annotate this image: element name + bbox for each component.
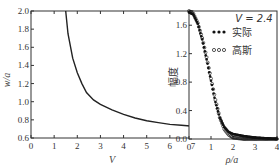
x-tick-label: 3 xyxy=(253,142,258,152)
legend-label-actual: 实际 xyxy=(232,26,252,38)
actual-point xyxy=(197,26,200,29)
x-tick-label: 7 xyxy=(191,141,196,151)
x-tick-label: 6 xyxy=(168,141,173,151)
left-plot: 0.60.81.01.21.41.61.82.0 01234567 V w/a xyxy=(1,6,196,165)
x-tick-label: 4 xyxy=(275,142,279,152)
actual-point xyxy=(197,23,200,26)
left-y-axis-label: w/a xyxy=(1,73,12,87)
actual-point xyxy=(205,58,208,61)
y-tick-label: 1.8 xyxy=(18,24,30,34)
x-tick-label: 4 xyxy=(121,141,126,151)
x-tick-label: 3 xyxy=(98,141,103,151)
actual-point xyxy=(198,29,201,32)
actual-point xyxy=(213,97,216,100)
y-tick-label: 0.0 xyxy=(176,134,188,144)
actual-point xyxy=(214,101,217,104)
y-tick-label: 2.0 xyxy=(18,6,30,16)
actual-point xyxy=(201,38,204,41)
y-tick-label: 1.6 xyxy=(176,20,188,30)
actual-point xyxy=(217,110,220,113)
actual-point xyxy=(276,138,279,141)
actual-point xyxy=(202,42,205,45)
v-annotation: V = 2.4 xyxy=(235,13,272,24)
left-x-axis-label: V xyxy=(109,154,117,165)
x-tick-label: 2 xyxy=(231,142,236,152)
actual-point xyxy=(212,88,215,91)
y-tick-label: 1.6 xyxy=(18,42,30,52)
actual-point xyxy=(204,54,207,57)
actual-point xyxy=(206,62,209,65)
actual-point xyxy=(208,71,211,74)
figure: 0.60.81.01.21.41.61.82.0 01234567 V w/a … xyxy=(0,0,279,165)
actual-point xyxy=(209,75,212,78)
actual-point xyxy=(199,32,202,35)
actual-point xyxy=(210,79,213,82)
right-y-axis-label: 幅度 xyxy=(167,67,179,87)
x-tick-label: 1 xyxy=(52,141,57,151)
actual-point xyxy=(203,46,206,49)
right-plot: 0.00.40.81.21.6 01234 V = 2.4 实际 高斯 ρ/a … xyxy=(167,10,279,166)
actual-point xyxy=(207,67,210,70)
y-tick-label: 1.0 xyxy=(18,97,30,107)
y-tick-label: 1.2 xyxy=(18,79,29,89)
actual-point xyxy=(218,113,221,116)
x-tick-label: 0 xyxy=(29,141,34,151)
actual-point xyxy=(215,104,218,107)
actual-point xyxy=(211,84,214,87)
y-tick-label: 0.6 xyxy=(18,133,30,143)
x-tick-label: 5 xyxy=(144,141,149,151)
y-tick-label: 0.4 xyxy=(176,106,188,116)
actual-point xyxy=(204,50,207,53)
legend-label-gaussian: 高斯 xyxy=(232,44,252,56)
left-y-ticks: 0.60.81.01.21.41.61.82.0 xyxy=(18,6,193,143)
actual-point xyxy=(200,35,203,38)
actual-point xyxy=(212,92,215,95)
actual-point xyxy=(216,107,219,110)
x-tick-label: 1 xyxy=(209,142,214,152)
right-x-axis-label: ρ/a xyxy=(225,154,239,165)
x-tick-label: 2 xyxy=(75,141,80,151)
y-tick-label: 1.4 xyxy=(18,60,30,70)
y-tick-label: 0.8 xyxy=(18,115,30,125)
x-tick-label: 0 xyxy=(187,142,192,152)
y-tick-label: 1.2 xyxy=(176,49,187,59)
